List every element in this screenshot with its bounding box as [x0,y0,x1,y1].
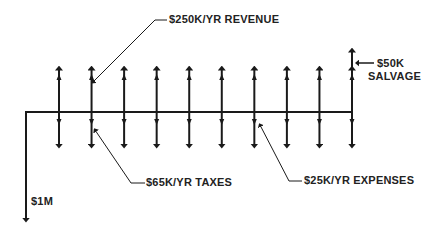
arrowhead-icon [219,119,224,125]
arrowhead-icon [350,119,355,125]
salvage-label: SALVAGE [368,70,421,82]
arrowhead-icon [154,74,159,80]
expenses-label: $25K/YR EXPENSES [304,174,414,186]
arrowhead-icon [284,74,289,80]
arrowhead-icon [122,119,127,125]
cash-flow-diagram [0,0,439,234]
taxes-label: $65K/YR TAXES [146,176,232,188]
arrowhead-icon [57,119,62,125]
revenue-label: $250K/YR REVENUE [169,13,279,25]
arrowhead-icon [154,119,159,125]
annual-cash-flow-arrows [57,68,355,146]
taxes-leader-line [95,130,145,183]
salvage-amount-label: $50K [377,57,404,69]
arrowhead-icon [57,74,62,80]
arrowhead-icon [89,74,94,80]
arrowhead-icon [219,74,224,80]
arrowhead-icon [89,119,94,125]
arrowhead-icon [187,119,192,125]
arrowhead-icon [284,119,289,125]
arrowhead-icon [317,74,322,80]
expenses-leader-line [260,125,302,181]
arrowhead-icon [252,74,257,80]
arrowhead-icon [317,119,322,125]
arrowhead-icon [187,74,192,80]
arrowhead-icon [252,119,257,125]
initial-investment-label: $1M [31,195,53,207]
arrowhead-icon [122,74,127,80]
